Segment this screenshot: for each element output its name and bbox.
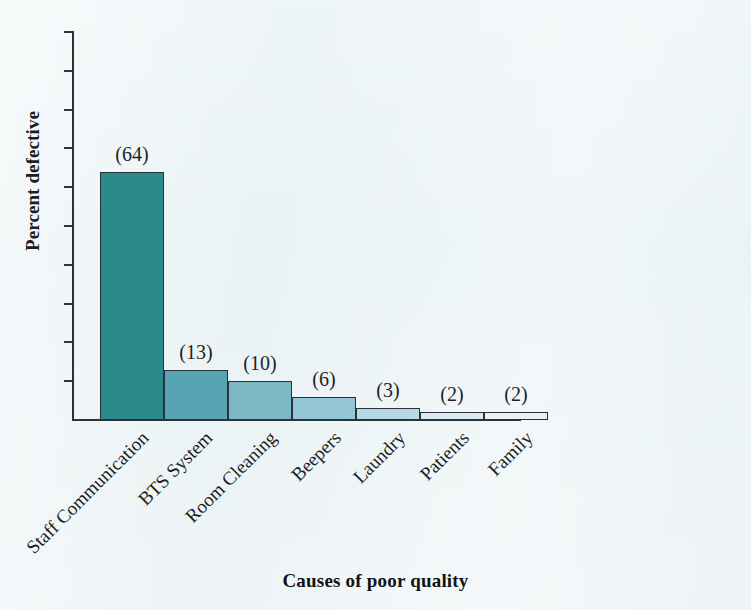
bar-room-cleaning [228, 381, 292, 420]
x-axis-label-patients: Patients [415, 427, 473, 485]
x-axis-label-laundry: Laundry [348, 427, 409, 488]
x-axis-title: Causes of poor quality [0, 570, 751, 592]
bar-beepers [292, 397, 356, 420]
x-axis-label-family: Family [484, 427, 538, 481]
bar-value-label: (2) [476, 384, 556, 404]
x-axis-label-beepers: Beepers [287, 427, 346, 486]
bar-bts-system [164, 370, 228, 420]
bar-family [484, 412, 548, 420]
bar-value-label: (64) [92, 144, 172, 164]
bar-laundry [356, 408, 420, 420]
bar-staff-communication [100, 172, 164, 420]
pareto-bar-chart: Percent defective 0102030405060708090100… [0, 0, 751, 610]
bar-patients [420, 412, 484, 420]
x-axis-label-staff-communication: Staff Communication [22, 427, 153, 558]
plot-area: (64)(13)(10)(6)(3)(2)(2) [74, 31, 521, 420]
y-axis-title: Percent defective [22, 66, 44, 296]
